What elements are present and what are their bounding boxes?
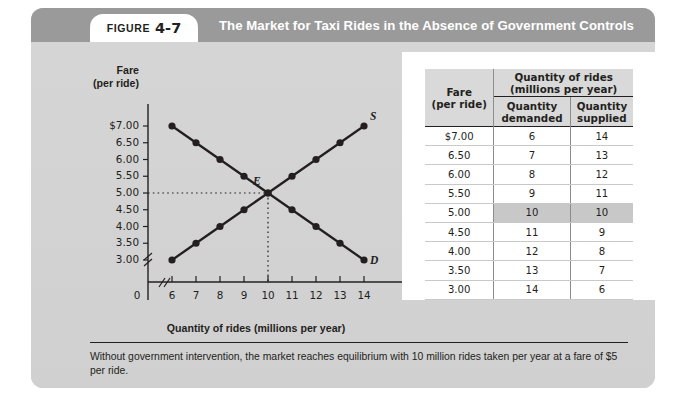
table-cell-quantity-demanded: 9 bbox=[494, 184, 570, 203]
plot-canvas: $7.006.506.005.505.004.504.003.503.00678… bbox=[31, 42, 421, 332]
data-point-supply bbox=[264, 189, 271, 196]
table-cell-quantity-demanded: 7 bbox=[494, 146, 570, 165]
origin-label: 0 bbox=[125, 289, 149, 301]
table-row: 3.50137 bbox=[425, 261, 633, 280]
x-axis-tick-label: 12 bbox=[304, 289, 328, 301]
data-table-card: Fare (per ride) Quantity of rides (milli… bbox=[402, 52, 655, 300]
table-cell-quantity-demanded: 8 bbox=[494, 165, 570, 184]
figure-number-badge: Figure 4-7 bbox=[90, 14, 198, 42]
table-row: 5.50911 bbox=[425, 184, 633, 203]
y-axis-tick-label: 5.50 bbox=[83, 169, 139, 181]
y-axis-tick-label: $7.00 bbox=[83, 119, 139, 131]
table-cell-quantity-supplied: 6 bbox=[570, 280, 633, 299]
col-header-quantity-demanded: Quantity demanded bbox=[494, 97, 570, 127]
y-axis-tick-label: 3.00 bbox=[83, 253, 139, 265]
table-cell-quantity-demanded: 13 bbox=[494, 261, 570, 280]
table-cell-fare: 5.00 bbox=[425, 203, 494, 222]
table-cell-quantity-supplied: 10 bbox=[570, 203, 633, 222]
table-cell-fare: 6.00 bbox=[425, 165, 494, 184]
table-cell-quantity-demanded: 10 bbox=[494, 203, 570, 222]
x-axis-tick-label: 10 bbox=[256, 289, 280, 301]
y-axis-tick-label: 4.50 bbox=[83, 203, 139, 215]
col-header-quantity-supplied: Quantity supplied bbox=[570, 97, 633, 127]
table-cell-fare: 3.00 bbox=[425, 280, 494, 299]
col-header-supplied-line2: supplied bbox=[577, 112, 627, 124]
figure-header-bar: Figure 4-7 The Market for Taxi Rides in … bbox=[31, 8, 655, 42]
table-cell-fare: 4.50 bbox=[425, 222, 494, 241]
data-point-supply bbox=[216, 223, 223, 230]
col-header-supplied-line1: Quantity bbox=[577, 100, 627, 112]
y-axis-tick-label: 6.50 bbox=[83, 136, 139, 148]
table-cell-quantity-demanded: 6 bbox=[494, 127, 570, 146]
data-point-demand bbox=[168, 122, 175, 129]
data-point-supply bbox=[168, 256, 175, 263]
data-point-demand bbox=[288, 206, 295, 213]
x-axis-tick-label: 11 bbox=[280, 289, 304, 301]
table-body: $7.006146.507136.008125.509115.0010104.5… bbox=[425, 127, 633, 300]
data-point-supply bbox=[288, 173, 295, 180]
col-header-demanded-line2: demanded bbox=[501, 112, 562, 124]
table-head: Fare (per ride) Quantity of rides (milli… bbox=[425, 69, 633, 127]
data-point-supply bbox=[360, 122, 367, 129]
data-point-demand bbox=[312, 223, 319, 230]
y-axis-tick-label: 4.00 bbox=[83, 220, 139, 232]
table-cell-quantity-supplied: 9 bbox=[570, 222, 633, 241]
table-cell-fare: $7.00 bbox=[425, 127, 494, 146]
col-header-group-quantity: Quantity of rides (millions per year) bbox=[494, 69, 633, 97]
table-row: 3.00146 bbox=[425, 280, 633, 299]
table-row: 6.50713 bbox=[425, 146, 633, 165]
supply-demand-table: Fare (per ride) Quantity of rides (milli… bbox=[425, 69, 633, 300]
table-cell-quantity-supplied: 13 bbox=[570, 146, 633, 165]
col-header-fare-line1: Fare bbox=[446, 86, 471, 98]
y-axis-tick-label: 3.50 bbox=[83, 236, 139, 248]
table-row: $7.00614 bbox=[425, 127, 633, 146]
table-cell-quantity-demanded: 12 bbox=[494, 242, 570, 261]
group-header-line1: Quantity of rides bbox=[515, 71, 613, 83]
data-point-supply bbox=[240, 206, 247, 213]
table-cell-fare: 3.50 bbox=[425, 261, 494, 280]
y-axis-tick-label: 6.00 bbox=[83, 153, 139, 165]
table-cell-quantity-demanded: 11 bbox=[494, 222, 570, 241]
table-head-row-group: Fare (per ride) Quantity of rides (milli… bbox=[425, 69, 633, 97]
figure-panel: Figure 4-7 The Market for Taxi Rides in … bbox=[31, 8, 655, 388]
data-point-supply bbox=[312, 156, 319, 163]
col-header-fare: Fare (per ride) bbox=[425, 69, 494, 127]
demand-curve-label: D bbox=[370, 254, 378, 266]
x-axis-tick-label: 7 bbox=[184, 289, 208, 301]
y-axis-tick-label: 5.00 bbox=[83, 186, 139, 198]
table-cell-quantity-supplied: 7 bbox=[570, 261, 633, 280]
figure-page: Figure 4-7 The Market for Taxi Rides in … bbox=[0, 0, 686, 396]
equilibrium-point-label: E bbox=[253, 175, 261, 187]
table-cell-quantity-supplied: 11 bbox=[570, 184, 633, 203]
x-axis-tick-label: 9 bbox=[232, 289, 256, 301]
table-cell-fare: 4.00 bbox=[425, 242, 494, 261]
supply-curve-label: S bbox=[370, 110, 376, 122]
table-row: 4.50119 bbox=[425, 222, 633, 241]
chart-area: Fare (per ride) Quantity of rides (milli… bbox=[31, 42, 421, 332]
data-point-supply bbox=[336, 139, 343, 146]
table-cell-fare: 6.50 bbox=[425, 146, 494, 165]
data-point-supply bbox=[192, 240, 199, 247]
col-header-fare-line2: (per ride) bbox=[431, 98, 486, 110]
figure-title: The Market for Taxi Rides in the Absence… bbox=[219, 8, 634, 42]
group-header-line2: (millions per year) bbox=[510, 83, 617, 95]
x-axis-tick-label: 14 bbox=[352, 289, 376, 301]
figure-word-label: Figure bbox=[107, 22, 150, 34]
table-cell-quantity-supplied: 14 bbox=[570, 127, 633, 146]
x-axis-tick-label: 13 bbox=[328, 289, 352, 301]
data-point-demand bbox=[360, 256, 367, 263]
x-axis-tick-label: 6 bbox=[160, 289, 184, 301]
table-cell-fare: 5.50 bbox=[425, 184, 494, 203]
table-cell-quantity-demanded: 14 bbox=[494, 280, 570, 299]
col-header-demanded-line1: Quantity bbox=[507, 100, 557, 112]
table-cell-quantity-supplied: 12 bbox=[570, 165, 633, 184]
caption-divider bbox=[90, 342, 628, 343]
data-point-demand bbox=[336, 240, 343, 247]
table-row: 4.00128 bbox=[425, 242, 633, 261]
table-row: 6.00812 bbox=[425, 165, 633, 184]
data-point-demand bbox=[192, 139, 199, 146]
figure-number-label: 4-7 bbox=[155, 20, 181, 36]
table-cell-quantity-supplied: 8 bbox=[570, 242, 633, 261]
data-point-demand bbox=[240, 173, 247, 180]
x-axis-tick-label: 8 bbox=[208, 289, 232, 301]
